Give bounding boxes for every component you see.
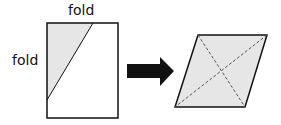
right-arrow-icon [127, 57, 174, 86]
folded-rectangle [47, 23, 118, 118]
parallelogram [175, 35, 267, 107]
fold-diagram [0, 0, 281, 125]
